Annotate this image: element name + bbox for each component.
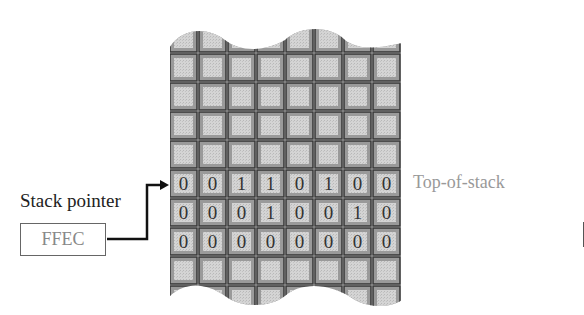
memory-cell-face [377,29,396,48]
memory-cell-face [261,145,280,164]
bit-value: 0 [179,173,189,194]
memory-cell-face [377,290,396,309]
memory-cell-face [377,261,396,280]
memory-cell-face [174,29,193,48]
bit-value: 0 [382,231,392,252]
stack-pointer-label: Stack pointer [20,190,121,212]
bit-value: 0 [295,202,305,223]
memory-cell-face [319,116,338,135]
bit-value: 0 [295,231,305,252]
bit-value: 0 [208,231,218,252]
memory-cell-face [290,87,309,106]
memory-cell-face [290,290,309,309]
memory-cell-face [203,116,222,135]
memory-cell-face [348,261,367,280]
bit-value: 0 [324,231,334,252]
bit-value: 1 [324,173,334,194]
bit-value: 0 [324,202,334,223]
memory-cells: 001101000001001000000000 [170,25,400,313]
memory-cell-face [232,145,251,164]
memory-cell-face [203,261,222,280]
stack-pointer-value: FFEC [41,229,84,250]
memory-cell-face [290,116,309,135]
memory-cell-face [377,145,396,164]
memory-cell-face [377,116,396,135]
memory-cell-face [203,58,222,77]
memory-cell-face [174,290,193,309]
memory-cell-face [319,290,338,309]
memory-cell-face [348,87,367,106]
memory-cell-face [261,261,280,280]
memory-cell-face [232,87,251,106]
memory-cell-face [348,290,367,309]
memory-cell-face [319,145,338,164]
memory-cell-face [261,290,280,309]
bit-value: 1 [237,173,247,194]
memory-cell-face [319,58,338,77]
top-of-stack-label: Top-of-stack [413,172,505,193]
memory-cell-face [261,29,280,48]
memory-cell-face [348,29,367,48]
memory-cell-face [174,58,193,77]
memory-cell-face [377,87,396,106]
memory-cell-face [203,290,222,309]
memory-cell-face [348,58,367,77]
bit-value: 0 [353,173,363,194]
memory-cell-face [290,145,309,164]
memory-cell-face [348,145,367,164]
memory-cell-face [232,290,251,309]
bit-value: 0 [266,231,276,252]
stack-pointer-register: FFEC [20,223,106,256]
memory-cell-face [348,116,367,135]
arrowhead-icon [160,180,169,190]
bit-value: 0 [382,202,392,223]
memory-cell-face [261,116,280,135]
memory-cell-face [174,116,193,135]
memory-cell-face [232,116,251,135]
bit-value: 0 [353,231,363,252]
memory-cell-face [261,58,280,77]
memory-cell-face [232,261,251,280]
memory-cell-face [203,87,222,106]
bit-value: 1 [353,202,363,223]
memory-cell-face [174,87,193,106]
bit-value: 0 [237,202,247,223]
bit-value: 0 [382,173,392,194]
bit-value: 0 [237,231,247,252]
bit-value: 0 [208,173,218,194]
memory-cell-face [261,87,280,106]
memory-cell-face [232,29,251,48]
memory-cell-face [290,261,309,280]
bit-value: 1 [266,202,276,223]
memory-cell-face [319,29,338,48]
memory-cell-face [174,261,193,280]
memory-cell-face [174,145,193,164]
bit-value: 1 [266,173,276,194]
bit-value: 0 [179,231,189,252]
memory-cell-face [290,29,309,48]
memory-cell-face [319,87,338,106]
memory-cell-face [203,29,222,48]
bit-value: 0 [179,202,189,223]
memory-cell-face [319,261,338,280]
memory-cell-face [290,58,309,77]
memory-cell-face [203,145,222,164]
memory-cell-face [232,58,251,77]
stack-diagram: 001101000001001000000000 Stack pointer F… [0,0,584,315]
bit-value: 0 [295,173,305,194]
memory-grid: 001101000001001000000000 [0,0,584,315]
memory-cell-face [377,58,396,77]
bit-value: 0 [208,202,218,223]
